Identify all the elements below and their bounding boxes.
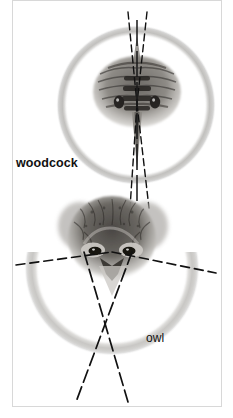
label-owl: owl	[146, 331, 164, 345]
visual-field-diagram	[0, 0, 233, 418]
label-woodcock: woodcock	[16, 156, 78, 170]
diagram-stage	[0, 0, 233, 418]
figure-panel: woodcock owl	[0, 0, 233, 418]
